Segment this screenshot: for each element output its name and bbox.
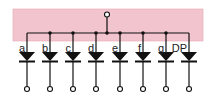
- segment-label: e: [112, 42, 118, 54]
- segment-label: b: [42, 42, 48, 54]
- segment-label: c: [66, 42, 72, 54]
- cathode-terminal-dp[interactable]: [187, 87, 192, 92]
- cathode-terminal-e[interactable]: [118, 87, 123, 92]
- segment-a: a: [19, 33, 35, 92]
- cathode-terminal-b[interactable]: [48, 87, 53, 92]
- segment-label: DP: [172, 42, 187, 54]
- segment-label: d: [88, 42, 94, 54]
- cathode-terminal-g[interactable]: [164, 87, 169, 92]
- segment-label: g: [158, 42, 164, 54]
- cathode-terminal-f[interactable]: [141, 87, 146, 92]
- common-anode-terminal[interactable]: [105, 12, 110, 17]
- led-diagram: abcdefgDP: [0, 0, 215, 100]
- common-junction-dot: [105, 31, 109, 35]
- cathode-terminal-a[interactable]: [25, 87, 30, 92]
- segment-label: a: [19, 42, 26, 54]
- segment-dp: DP: [172, 33, 197, 92]
- cathode-terminal-c[interactable]: [71, 87, 76, 92]
- cathode-terminal-d[interactable]: [94, 87, 99, 92]
